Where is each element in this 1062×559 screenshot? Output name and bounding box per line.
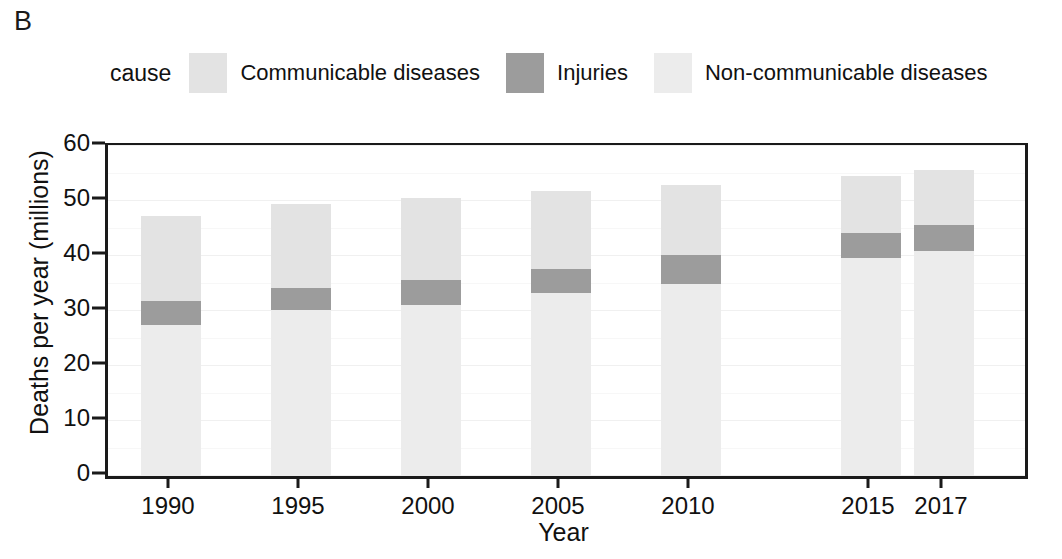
bar-series-container [108, 146, 1025, 476]
x-axis-tick-mark [427, 476, 430, 488]
legend-label-noncommunicable: Non-communicable diseases [705, 60, 987, 86]
x-axis-tick-label: 1990 [141, 492, 194, 520]
y-axis-tick-mark [92, 142, 105, 145]
bar-segment-injuries[interactable] [661, 255, 721, 284]
legend-swatch-communicable-icon [189, 53, 227, 93]
y-axis-tick-labels: 0102030405060 [38, 118, 90, 559]
legend-swatch-injuries-icon [506, 53, 544, 93]
bar-segment-injuries[interactable] [401, 280, 461, 305]
x-axis-tick-label: 2010 [661, 492, 714, 520]
y-axis-tick-label: 60 [63, 129, 90, 157]
bar-segment-communicable-diseases[interactable] [401, 198, 461, 280]
bar-segment-injuries[interactable] [531, 269, 591, 293]
x-axis-tick-label: 1995 [271, 492, 324, 520]
x-axis-tick-mark [940, 476, 943, 488]
bar-segment-communicable-diseases[interactable] [661, 185, 721, 255]
bar-1995[interactable] [271, 204, 331, 476]
x-axis-tick-label: 2017 [914, 492, 967, 520]
legend-item-noncommunicable: Non-communicable diseases [654, 53, 987, 93]
y-axis-tick-label: 30 [63, 294, 90, 322]
x-axis-title: Year [105, 518, 1022, 547]
x-axis-tick-label: 2005 [531, 492, 584, 520]
bar-segment-injuries[interactable] [914, 225, 974, 251]
x-axis-tick-mark [557, 476, 560, 488]
bar-2005[interactable] [531, 191, 591, 476]
bar-segment-communicable-diseases[interactable] [271, 204, 331, 288]
bar-1990[interactable] [141, 216, 201, 476]
y-axis-tick-label: 50 [63, 184, 90, 212]
y-axis-tick-mark [92, 417, 105, 420]
bar-segment-non-communicable-diseases[interactable] [141, 325, 201, 476]
bar-segment-injuries[interactable] [141, 301, 201, 325]
bar-segment-communicable-diseases[interactable] [841, 176, 901, 233]
x-axis-tick-mark [167, 476, 170, 488]
bar-segment-communicable-diseases[interactable] [141, 216, 201, 301]
legend-item-injuries: Injuries [506, 53, 654, 93]
plot-frame [105, 143, 1028, 479]
bar-segment-injuries[interactable] [271, 288, 331, 310]
x-axis-tick-mark [867, 476, 870, 488]
bar-segment-non-communicable-diseases[interactable] [914, 251, 974, 476]
bar-segment-communicable-diseases[interactable] [914, 170, 974, 225]
chart-legend: cause Communicable diseases Injuries Non… [110, 52, 987, 94]
y-axis-tick-label: 20 [63, 349, 90, 377]
chart-plot-area: Deaths per year (millions) 0102030405060… [0, 118, 1062, 559]
bar-segment-non-communicable-diseases[interactable] [841, 258, 901, 476]
bar-2000[interactable] [401, 198, 461, 476]
bar-2010[interactable] [661, 185, 721, 476]
legend-item-communicable: Communicable diseases [189, 53, 506, 93]
legend-title: cause [110, 60, 171, 87]
y-axis-tick-mark [92, 472, 105, 475]
legend-swatch-noncommunicable-icon [654, 53, 692, 93]
x-axis-tick-mark [297, 476, 300, 488]
y-axis-tick-label: 40 [63, 239, 90, 267]
panel-letter: B [14, 6, 32, 37]
legend-label-communicable: Communicable diseases [240, 60, 480, 86]
bar-segment-injuries[interactable] [841, 233, 901, 258]
y-axis-tick-mark [92, 197, 105, 200]
y-axis-tick-mark [92, 362, 105, 365]
x-axis-tick-label: 2015 [841, 492, 894, 520]
y-axis-tick-mark [92, 307, 105, 310]
legend-label-injuries: Injuries [557, 60, 628, 86]
x-axis-ticks: 1990199520002005201020152017 [105, 476, 1022, 477]
bar-2015[interactable] [841, 176, 901, 476]
bar-segment-non-communicable-diseases[interactable] [661, 284, 721, 476]
y-axis-tick-label: 0 [77, 459, 90, 487]
bar-segment-non-communicable-diseases[interactable] [401, 305, 461, 476]
x-axis-tick-mark [687, 476, 690, 488]
x-axis-tick-label: 2000 [401, 492, 454, 520]
bar-segment-communicable-diseases[interactable] [531, 191, 591, 269]
y-axis-tick-label: 10 [63, 404, 90, 432]
y-axis-tick-mark [92, 252, 105, 255]
bar-segment-non-communicable-diseases[interactable] [531, 293, 591, 476]
bar-segment-non-communicable-diseases[interactable] [271, 310, 331, 476]
bar-2017[interactable] [914, 170, 974, 476]
